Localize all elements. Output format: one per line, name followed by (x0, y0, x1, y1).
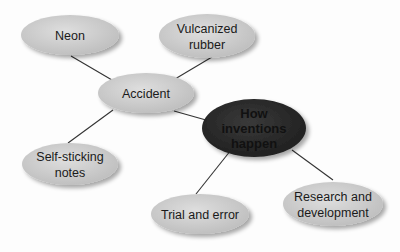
node-label: happen (231, 136, 277, 151)
node-research-and-development: Research anddevelopment (283, 182, 383, 226)
node-label: Accident (122, 87, 170, 101)
edge-vulcanized-rubber-to-accident (175, 57, 212, 79)
edge-how-inventions-happen-to-research-and-development (292, 150, 333, 180)
node-label: inventions (221, 121, 286, 136)
node-label: Research and (294, 190, 372, 204)
concept-map-canvas: NeonVulcanizedrubberAccidentHowinvention… (0, 0, 400, 252)
node-label: development (297, 206, 369, 220)
node-label: rubber (189, 38, 225, 52)
nodes: NeonVulcanizedrubberAccidentHowinvention… (21, 14, 383, 234)
concept-map: NeonVulcanizedrubberAccidentHowinvention… (0, 0, 400, 252)
node-self-sticking-notes: Self-stickingnotes (22, 143, 118, 185)
node-label: Vulcanized (177, 22, 238, 36)
edge-neon-to-accident (71, 56, 112, 80)
edge-how-inventions-happen-to-trial-and-error (196, 150, 231, 194)
node-trial-and-error: Trial and error (151, 194, 249, 234)
node-label: Trial and error (161, 208, 239, 222)
node-vulcanized-rubber: Vulcanizedrubber (159, 14, 255, 58)
node-how-inventions-happen: Howinventionshappen (202, 99, 306, 157)
node-label: How (240, 106, 268, 121)
node-neon: Neon (21, 15, 119, 55)
node-accident: Accident (98, 73, 194, 113)
node-label: Neon (55, 29, 85, 43)
node-label: notes (55, 166, 86, 180)
edge-accident-to-self-sticking-notes (68, 110, 113, 143)
node-label: Self-sticking (36, 150, 103, 164)
